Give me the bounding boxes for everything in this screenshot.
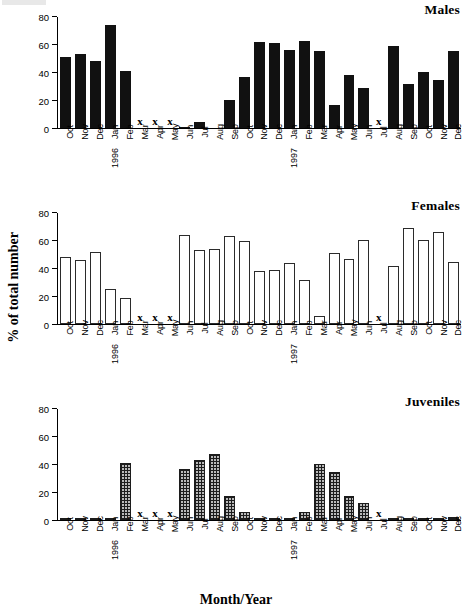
bar <box>269 270 280 324</box>
x-label-slot: Aug <box>207 523 222 585</box>
bar-slot <box>446 213 461 324</box>
x-label-slot: May <box>342 523 357 585</box>
bar-slot <box>386 409 401 520</box>
bar <box>105 289 116 324</box>
y-axis-tick-label: 60 <box>38 432 49 443</box>
y-axis-tick-label: 0 <box>44 124 49 135</box>
bar <box>388 46 399 128</box>
bar-slot <box>282 17 297 128</box>
missing-data-marker: x <box>376 116 382 127</box>
bar-slot <box>297 409 312 520</box>
x-label-slot: Dec <box>446 327 461 389</box>
x-label-slot: Oct <box>58 131 73 193</box>
multi-panel-bar-chart-figure: Males xxxx 020406080 OctNovDecJan1996Feb… <box>0 0 472 613</box>
x-label-slot: Nov <box>73 131 88 193</box>
x-label-slot: Dec <box>88 131 103 193</box>
plot-area-females: xxxx 020406080 <box>57 213 461 325</box>
x-label-slot: Jul <box>371 327 386 389</box>
bar-series-males: xxxx <box>58 17 461 128</box>
x-label-slot: Apr <box>327 327 342 389</box>
y-axis-tick <box>52 408 57 409</box>
bar-slot <box>356 213 371 324</box>
bar-slot: x <box>162 17 177 128</box>
y-axis-tick-label: 60 <box>38 236 49 247</box>
panel-title-females: Females <box>411 198 460 214</box>
y-axis-tick <box>52 240 57 241</box>
bar-slot <box>192 17 207 128</box>
y-axis-tick <box>52 324 57 325</box>
x-axis-labels-juveniles: OctNovDecJan1996FebMarAprMayJunJulAugSep… <box>58 523 461 585</box>
bar <box>209 454 220 520</box>
bar-slot <box>282 213 297 324</box>
x-label-slot: Apr <box>327 131 342 193</box>
x-label-slot: Mar <box>133 327 148 389</box>
bar-slot <box>237 17 252 128</box>
x-axis-labels-females: OctNovDecJan1996FebMarAprMayJunJulAugSep… <box>58 327 461 389</box>
y-axis-tick-label: 40 <box>38 264 49 275</box>
bar-slot <box>237 213 252 324</box>
bar-slot <box>431 17 446 128</box>
x-label-slot: Mar <box>312 131 327 193</box>
bar-slot <box>177 409 192 520</box>
bar <box>284 263 295 324</box>
x-label-slot: Sep <box>401 131 416 193</box>
bar-slot <box>386 213 401 324</box>
bar-slot <box>342 409 357 520</box>
y-axis-tick <box>52 128 57 129</box>
y-axis-tick <box>52 520 57 521</box>
panel-title-juveniles: Juveniles <box>405 394 460 410</box>
bar-slot <box>177 17 192 128</box>
plot-area-juveniles: xxxx 020406080 <box>57 409 461 521</box>
bar-slot <box>431 213 446 324</box>
bar-series-females: xxxx <box>58 213 461 324</box>
x-label-slot: May <box>162 523 177 585</box>
x-label-slot: Dec <box>88 523 103 585</box>
bar <box>194 250 205 324</box>
x-axis-title: Month/Year <box>0 592 472 608</box>
bar-slot <box>222 213 237 324</box>
bar-slot: x <box>133 17 148 128</box>
bar-slot <box>103 409 118 520</box>
x-axis-month-label: Dec <box>453 124 463 140</box>
bar-slot: x <box>148 17 163 128</box>
bar-slot <box>312 17 327 128</box>
x-label-slot: Oct <box>237 523 252 585</box>
bar <box>314 51 325 128</box>
x-label-slot: May <box>162 327 177 389</box>
x-label-slot: Sep <box>401 523 416 585</box>
x-label-slot: Mar <box>133 523 148 585</box>
bar-slot <box>416 213 431 324</box>
bar <box>239 77 250 128</box>
x-label-slot: Jan1996 <box>103 327 118 389</box>
bar <box>179 235 190 324</box>
x-label-slot: Dec <box>267 327 282 389</box>
x-label-slot: Dec <box>267 523 282 585</box>
y-axis-tick <box>52 16 57 17</box>
y-axis-tick-label: 40 <box>38 460 49 471</box>
bar-slot <box>342 17 357 128</box>
x-axis-month-label: Dec <box>453 516 463 532</box>
bar-slot: x <box>133 213 148 324</box>
bar <box>329 253 340 324</box>
missing-data-marker: x <box>376 508 382 519</box>
chart-panel-males: Males xxxx 020406080 OctNovDecJan1996Feb… <box>0 0 472 196</box>
x-label-slot: Aug <box>207 327 222 389</box>
bar-slot: x <box>148 409 163 520</box>
x-label-slot: Oct <box>416 327 431 389</box>
x-label-slot: Sep <box>222 131 237 193</box>
x-label-slot: Sep <box>222 327 237 389</box>
bar <box>254 42 265 128</box>
y-axis-tick <box>52 100 57 101</box>
x-label-slot: Jun <box>356 131 371 193</box>
bar-slot <box>401 409 416 520</box>
x-label-slot: Jan1996 <box>103 523 118 585</box>
bar-slot <box>356 409 371 520</box>
x-label-slot: Jan1996 <box>103 131 118 193</box>
y-axis-tick-label: 80 <box>38 12 49 23</box>
bar-slot <box>73 409 88 520</box>
bar-slot <box>222 409 237 520</box>
bar <box>344 259 355 324</box>
x-label-slot: Feb <box>118 327 133 389</box>
bar-slot <box>327 213 342 324</box>
y-axis-tick-label: 0 <box>44 320 49 331</box>
